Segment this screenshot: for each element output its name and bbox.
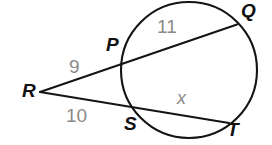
measure-label-rs: 10 — [66, 106, 87, 125]
measure-label-rp: 9 — [69, 57, 80, 76]
measure-label-st-unknown: x — [177, 89, 186, 107]
point-label-r: R — [22, 81, 36, 100]
geometry-diagram: Q P R S T 9 11 10 x — [0, 0, 272, 145]
point-label-s: S — [124, 114, 137, 133]
point-label-p: P — [106, 35, 119, 54]
measure-label-pq: 11 — [157, 17, 177, 36]
point-label-q: Q — [241, 1, 256, 20]
point-label-t: T — [227, 120, 239, 139]
circle-shape — [121, 2, 257, 138]
